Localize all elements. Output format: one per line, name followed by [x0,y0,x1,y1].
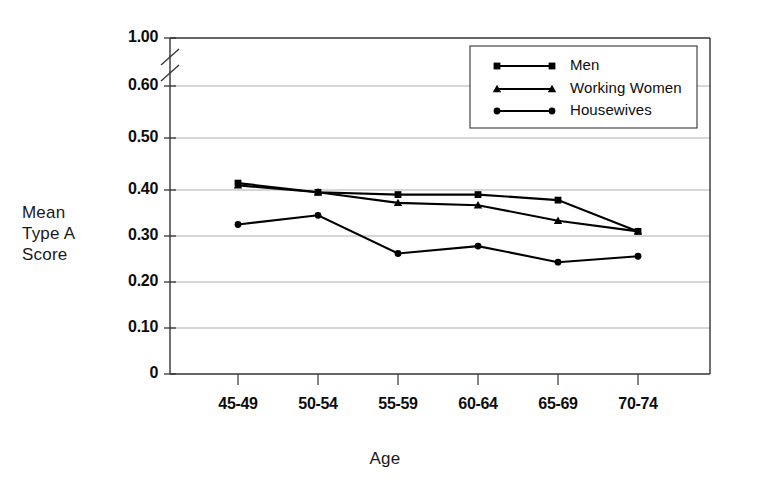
legend-label-working-women: Working Women [570,79,682,96]
marker-housewives-50-54 [315,212,322,219]
x-tick-label-55-59: 55-59 [353,395,443,413]
marker-housewives-65-69 [555,259,562,266]
series-line-housewives [238,215,638,262]
y-axis-label-line-3: Score [22,244,142,265]
marker-men-55-59 [395,191,402,198]
marker-men-65-69 [555,197,562,204]
marker-housewives-70-74 [635,253,642,260]
y-tick-label-0.10: 0.10 [86,318,158,336]
y-tick-label-0: 0 [86,364,158,382]
x-tick-label-45-49: 45-49 [193,395,283,413]
y-tick-label-0.30: 0.30 [86,226,158,244]
marker-housewives-45-49 [235,221,242,228]
data-series-group [234,180,642,266]
y-tick-label-1.00: 1.00 [86,28,158,46]
legend-label-housewives: Housewives [570,101,652,118]
marker-housewives-55-59 [395,250,402,257]
x-tick-label-65-69: 65-69 [513,395,603,413]
legend-marker-square-0-0 [494,63,501,70]
legend-marker-square-0-1 [549,63,556,70]
x-tick-label-50-54: 50-54 [273,395,363,413]
y-tick-label-0.50: 0.50 [86,128,158,146]
y-axis-label-line-1: Mean [22,202,142,223]
x-tick-label-60-64: 60-64 [433,395,523,413]
x-tick-label-70-74: 70-74 [593,395,683,413]
chart-figure: Mean Type A Score Age 00.100.200.300.400… [0,0,770,494]
legend-marker-circle-2-1 [549,108,556,115]
marker-housewives-60-64 [475,243,482,250]
legend-marker-circle-2-0 [494,108,501,115]
y-tick-label-0.60: 0.60 [86,76,158,94]
y-tick-label-0.20: 0.20 [86,272,158,290]
marker-men-60-64 [475,191,482,198]
x-axis-label: Age [0,448,770,469]
y-tick-label-0.40: 0.40 [86,180,158,198]
legend-label-men: Men [570,56,599,73]
